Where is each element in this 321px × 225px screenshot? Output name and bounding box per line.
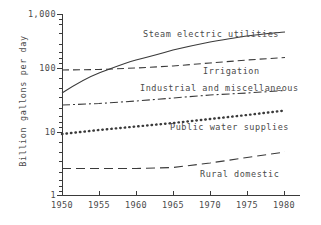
series-label-irrigation: Irrigation bbox=[203, 66, 260, 76]
y-axis-minor-ticks bbox=[59, 20, 62, 192]
y-axis-major-ticks bbox=[57, 15, 62, 196]
series-label-industrial-and-miscellaneous: Industrial and miscellaneous bbox=[140, 83, 299, 93]
series-line-rural-domestic bbox=[62, 152, 285, 169]
chart-figure: Billion gallons per day 1,000 100 10 1 1… bbox=[0, 0, 321, 225]
series-label-steam-electric-utilities: Steam electric utilities bbox=[143, 29, 279, 39]
series-label-public-water-supplies: Public water supplies bbox=[170, 122, 289, 132]
series-label-rural-domestic: Rural domestic bbox=[200, 169, 279, 179]
